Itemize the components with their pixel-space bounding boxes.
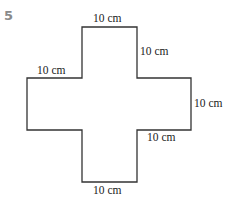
label-bottom: 10 cm xyxy=(93,184,121,196)
label-left-arm-top: 10 cm xyxy=(37,64,65,76)
label-right-arm-side: 10 cm xyxy=(194,97,222,109)
label-right-arm-bottom: 10 cm xyxy=(147,131,175,143)
label-top-right-side: 10 cm xyxy=(140,45,168,57)
label-top: 10 cm xyxy=(93,12,121,24)
